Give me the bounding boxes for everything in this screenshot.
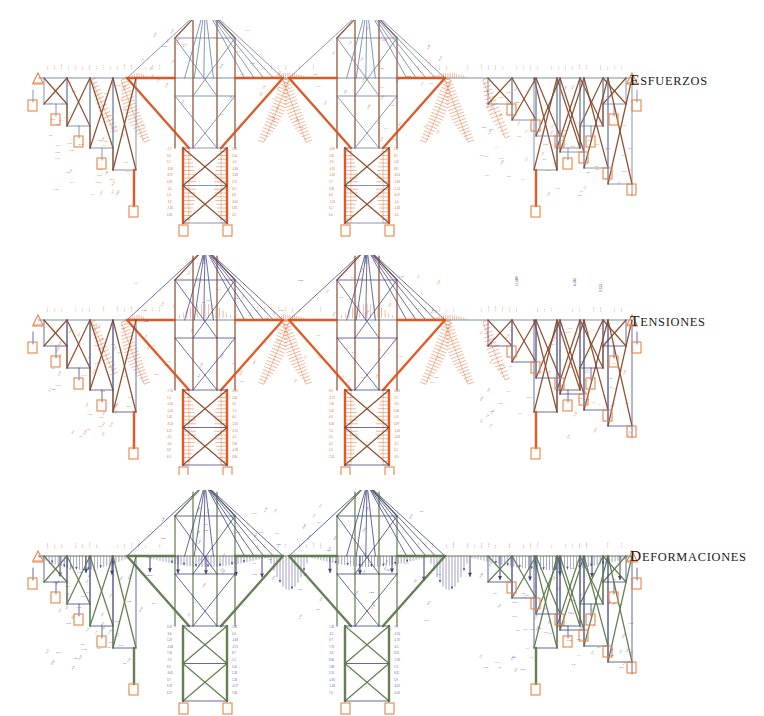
svg-text:9.74: 9.74 (167, 684, 173, 688)
svg-text:-6.47: -6.47 (394, 193, 400, 197)
svg-text:-7.76: -7.76 (167, 389, 173, 393)
svg-text:0.6: 0.6 (71, 429, 76, 434)
svg-text:5.55: 5.55 (319, 543, 322, 548)
svg-text:-3.90: -3.90 (479, 572, 485, 579)
svg-text:-8.02: -8.02 (232, 200, 238, 204)
svg-text:-9.53: -9.53 (408, 513, 414, 520)
svg-text:-0.40: -0.40 (167, 402, 173, 406)
svg-text:-8.4: -8.4 (199, 556, 204, 562)
svg-text:5.9: 5.9 (394, 678, 398, 682)
svg-text:-2.3: -2.3 (100, 612, 105, 618)
svg-text:7.08: 7.08 (577, 360, 582, 363)
svg-text:8.44: 8.44 (219, 63, 224, 69)
svg-text:-7.9: -7.9 (329, 160, 334, 164)
svg-text:-8.1: -8.1 (87, 573, 92, 579)
svg-text:-9.4: -9.4 (569, 634, 574, 637)
svg-text:2.7: 2.7 (485, 174, 489, 177)
svg-text:-4.10: -4.10 (384, 559, 390, 566)
svg-text:-9.9: -9.9 (385, 568, 390, 571)
svg-text:-1.49: -1.49 (329, 173, 335, 177)
svg-text:2.14: 2.14 (329, 455, 335, 459)
svg-text:2.90: 2.90 (154, 373, 159, 376)
svg-text:2.7: 2.7 (557, 66, 560, 70)
svg-text:3.7: 3.7 (123, 308, 126, 312)
svg-text:-3.57: -3.57 (362, 569, 368, 576)
svg-text:-4.32: -4.32 (378, 67, 384, 70)
svg-text:3.18: 3.18 (167, 213, 173, 217)
svg-text:2.13: 2.13 (102, 65, 105, 70)
svg-text:-7.8: -7.8 (497, 603, 502, 609)
svg-text:5.0: 5.0 (124, 161, 128, 164)
svg-text:-1.14: -1.14 (394, 187, 400, 191)
svg-text:-6.1: -6.1 (53, 307, 56, 312)
svg-text:7.28: 7.28 (506, 91, 511, 94)
svg-text:6.14: 6.14 (346, 298, 351, 301)
svg-text:-8.0: -8.0 (529, 628, 534, 631)
svg-text:-6.16: -6.16 (109, 421, 115, 428)
svg-text:7.0: 7.0 (329, 691, 333, 695)
svg-text:7.44: 7.44 (609, 647, 614, 653)
svg-text:-5.9: -5.9 (613, 307, 616, 312)
svg-text:-8.8: -8.8 (566, 434, 571, 440)
svg-text:-6.8: -6.8 (252, 562, 257, 565)
svg-text:1.8: 1.8 (519, 412, 523, 415)
svg-text:-9.61: -9.61 (167, 671, 173, 675)
svg-text:-9.68: -9.68 (585, 542, 588, 548)
svg-text:9.18: 9.18 (501, 307, 504, 312)
svg-text:-8.8: -8.8 (552, 162, 557, 165)
panel-label-deformaciones: DEFORMACIONES (630, 548, 747, 564)
panel-label-esfuerzos-initial: E (630, 71, 640, 88)
svg-text:1.5: 1.5 (232, 658, 236, 662)
svg-text:3.32: 3.32 (161, 537, 166, 540)
svg-text:-8.31: -8.31 (232, 389, 238, 393)
panel-deformaciones: -8.418.78.75.470.6-2.135.61.2-3.71.33-3.… (0, 490, 764, 716)
svg-text:-7.7: -7.7 (420, 81, 425, 87)
svg-text:-3.1: -3.1 (394, 442, 399, 446)
svg-text:0.0: 0.0 (97, 647, 101, 650)
svg-text:-7.3: -7.3 (612, 578, 617, 581)
svg-text:4.1: 4.1 (217, 288, 221, 291)
svg-text:7.2: 7.2 (341, 375, 346, 380)
svg-text:-1.50: -1.50 (622, 369, 628, 376)
svg-text:6.93: 6.93 (584, 398, 589, 401)
svg-text:6.9: 6.9 (259, 91, 264, 96)
svg-text:-6.0: -6.0 (98, 425, 103, 428)
svg-text:-4.26: -4.26 (394, 435, 400, 439)
esfuerzos-diagram: -3.5-6.3-2.039.35.316.20.20-2.42.137.83.… (0, 20, 764, 240)
svg-text:-7.24: -7.24 (116, 84, 122, 87)
svg-text:-3.09: -3.09 (565, 331, 571, 334)
svg-text:-3.50: -3.50 (380, 94, 386, 101)
svg-text:7.63: 7.63 (466, 543, 469, 548)
svg-text:4.0: 4.0 (329, 435, 333, 439)
svg-text:5.91: 5.91 (513, 354, 518, 360)
svg-text:4.51: 4.51 (394, 651, 400, 655)
svg-text:-7.7: -7.7 (87, 354, 92, 360)
svg-text:-5.8: -5.8 (394, 160, 399, 164)
svg-text:-6.13: -6.13 (53, 188, 59, 191)
svg-text:-4.0: -4.0 (506, 390, 511, 393)
svg-text:-9.0: -9.0 (388, 302, 393, 308)
svg-text:3.33: 3.33 (204, 529, 209, 532)
svg-text:-7.11: -7.11 (514, 101, 520, 104)
svg-text:6.34: 6.34 (329, 422, 335, 426)
svg-text:2.8: 2.8 (413, 578, 418, 583)
svg-text:6.27: 6.27 (529, 65, 532, 70)
svg-text:-2.8: -2.8 (87, 428, 92, 431)
svg-text:1.79: 1.79 (298, 65, 301, 70)
svg-text:2.89: 2.89 (500, 364, 505, 367)
svg-text:-6.7: -6.7 (559, 129, 564, 132)
svg-text:5.8: 5.8 (510, 329, 514, 332)
svg-text:4.17: 4.17 (45, 648, 50, 654)
svg-text:6.79: 6.79 (124, 375, 129, 378)
svg-text:-5.23: -5.23 (578, 64, 581, 70)
svg-text:9.2: 9.2 (206, 299, 210, 302)
svg-text:-2.29: -2.29 (122, 85, 128, 92)
svg-text:-9.23: -9.23 (576, 194, 582, 197)
svg-text:-4.58: -4.58 (116, 306, 119, 312)
svg-text:-4.27: -4.27 (232, 684, 238, 688)
svg-text:7.17: 7.17 (508, 307, 511, 312)
svg-text:1.6: 1.6 (445, 544, 448, 548)
svg-text:-8.20: -8.20 (612, 330, 618, 333)
svg-text:-6.19: -6.19 (567, 366, 573, 369)
svg-text:1.58: 1.58 (329, 625, 335, 629)
